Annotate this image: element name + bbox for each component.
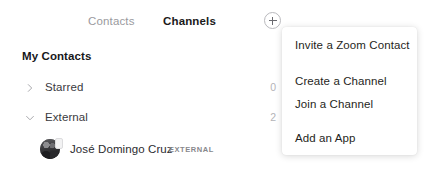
group-label-starred: Starred [45, 81, 83, 93]
tab-channels[interactable]: Channels [163, 14, 216, 28]
plus-vertical-stroke [272, 17, 273, 25]
add-dropdown-menu: Invite a Zoom Contact Create a Channel J… [282, 27, 417, 155]
group-row-starred[interactable]: Starred 0 [0, 76, 285, 102]
menu-item-join-a-channel[interactable]: Join a Channel [295, 97, 373, 111]
avatar [40, 138, 62, 160]
contact-name: José Domingo Cruz [70, 143, 173, 155]
contacts-sidebar: My Contacts Starred 0 External 2 [0, 40, 285, 171]
group-label-external: External [45, 111, 88, 123]
chevron-right-icon[interactable] [24, 82, 36, 94]
menu-item-create-a-channel[interactable]: Create a Channel [295, 74, 387, 88]
section-title-my-contacts: My Contacts [22, 50, 91, 62]
plus-circle-icon[interactable] [264, 12, 281, 29]
avatar-badge-icon [55, 138, 63, 149]
group-row-external[interactable]: External 2 [0, 106, 285, 132]
status-badge-external: EXTERNAL [169, 145, 214, 154]
chevron-down-icon[interactable] [24, 112, 36, 124]
menu-item-invite-a-zoom-contact[interactable]: Invite a Zoom Contact [295, 38, 410, 52]
avatar-photo-figure-right [50, 151, 59, 159]
group-count-external: 2 [264, 111, 276, 123]
menu-item-add-an-app[interactable]: Add an App [295, 131, 355, 145]
tab-contacts[interactable]: Contacts [88, 14, 135, 28]
list-item[interactable]: José Domingo Cruz EXTERNAL [0, 136, 285, 168]
group-count-starred: 0 [264, 81, 276, 93]
